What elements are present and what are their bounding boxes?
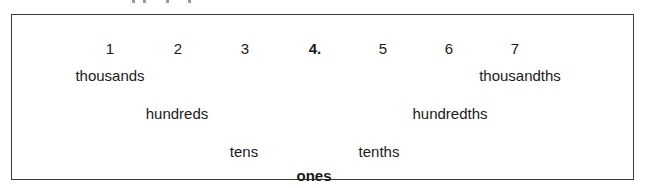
digit-3: 3 <box>241 41 249 56</box>
label-thousands: thousands <box>75 68 144 83</box>
cropped-text-fragment <box>166 0 169 3</box>
cropped-text-fragment <box>132 0 135 3</box>
label-hundredths: hundredths <box>412 106 487 121</box>
cropped-text-fragment <box>188 0 191 3</box>
digit-4-decimal: 4. <box>309 41 322 56</box>
label-tens: tens <box>230 144 258 159</box>
digit-5: 5 <box>379 41 387 56</box>
label-thousandths: thousandths <box>479 68 561 83</box>
label-ones: ones <box>296 168 331 183</box>
digit-6: 6 <box>445 41 453 56</box>
digit-1: 1 <box>106 41 114 56</box>
digit-2: 2 <box>174 41 182 56</box>
digit-7: 7 <box>511 41 519 56</box>
label-hundreds: hundreds <box>146 106 209 121</box>
label-tenths: tenths <box>359 144 400 159</box>
place-value-box <box>11 14 634 180</box>
cropped-text-fragment <box>143 0 146 3</box>
